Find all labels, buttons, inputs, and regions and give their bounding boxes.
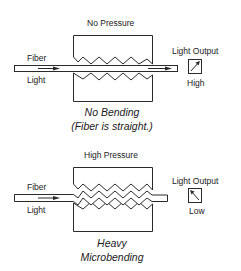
caption-bottom-line1: Heavy (62, 237, 162, 250)
caption-bottom-line2: Microbending (52, 251, 172, 264)
pressure-label-bottom: High Pressure (84, 150, 138, 160)
microbending-diagram (0, 0, 241, 271)
output-label-bottom: Light Output (172, 176, 218, 186)
fiber-label-bottom: Fiber (27, 182, 46, 192)
caption-top-line1: No Bending (62, 106, 162, 119)
lower-clamp-block (74, 73, 153, 102)
pressure-label-top: No Pressure (87, 18, 134, 28)
lower-clamp-block-pressed (74, 202, 153, 232)
bent-fiber (15, 191, 168, 205)
output-label-top: Light Output (172, 46, 218, 56)
upper-clamp-block (74, 36, 153, 65)
light-label-top: Light (27, 75, 45, 85)
fiber-label-top: Fiber (27, 53, 46, 63)
upper-clamp-block-pressed (74, 168, 153, 192)
meter-reading-low: Low (189, 206, 205, 216)
meter-reading-high: High (187, 78, 204, 88)
caption-top-line2: (Fiber is straight.) (52, 120, 172, 133)
light-label-bottom: Light (27, 205, 45, 215)
